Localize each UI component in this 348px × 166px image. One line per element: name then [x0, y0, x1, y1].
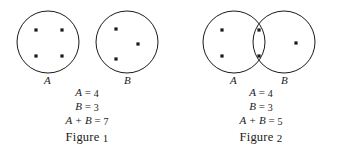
set-a-only-dot — [220, 28, 223, 31]
figure-1-equations: A = 4 B = 3 A + B = 7 — [0, 86, 174, 128]
figure-1: A B A = 4 B = 3 A + B = 7 Figure 1 — [0, 0, 174, 166]
figure-2-set-a-label: A — [230, 75, 237, 86]
eq-right: 3 — [268, 102, 273, 113]
eq-left: B — [75, 100, 82, 112]
figure-2-svg — [174, 4, 348, 80]
eq-right: 4 — [94, 88, 99, 99]
figure-1-equation-a: A = 4 — [0, 86, 174, 100]
eq-right: 7 — [103, 116, 108, 127]
eq-right: 5 — [277, 116, 282, 127]
figure-1-svg — [0, 4, 174, 80]
set-a-dot — [34, 28, 37, 31]
figure-1-equation-sum: A + B = 7 — [0, 114, 174, 128]
figure-1-set-a-label: A — [44, 75, 51, 86]
set-b-circle — [253, 11, 315, 73]
set-b-dot — [136, 42, 139, 45]
caption-number: 1 — [103, 132, 109, 144]
figure-2-equation-a: A = 4 — [174, 86, 348, 100]
caption-text: Figure — [240, 130, 274, 144]
figure-1-caption: Figure 1 — [0, 131, 174, 144]
set-b-circle — [96, 11, 158, 73]
figure-2-caption: Figure 2 — [174, 131, 348, 144]
figure-2-equations: A = 4 B = 3 A + B = 5 — [174, 86, 348, 128]
eq-left: A + B — [66, 114, 92, 126]
set-b-dot — [114, 27, 117, 30]
set-a-circle — [17, 11, 79, 73]
figure-2: A B A = 4 B = 3 A + B = 5 Figure 2 — [174, 0, 348, 166]
figure-1-diagram — [0, 4, 174, 80]
set-a-dot — [34, 54, 37, 57]
caption-text: Figure — [66, 130, 100, 144]
eq-right: 4 — [268, 88, 273, 99]
set-b-dot — [114, 57, 117, 60]
set-a-only-dot — [220, 54, 223, 57]
set-b-only-dot — [294, 41, 297, 44]
intersection-dot — [257, 54, 260, 57]
figure-1-set-b-label: B — [124, 75, 131, 86]
figure-1-equation-b: B = 3 — [0, 100, 174, 114]
figure-2-diagram — [174, 4, 348, 80]
eq-left: B — [249, 100, 256, 112]
eq-left: A + B — [240, 114, 266, 126]
eq-right: 3 — [94, 102, 99, 113]
intersection-dot — [257, 28, 260, 31]
eq-left: A — [249, 86, 256, 98]
figure-2-equation-sum: A + B = 5 — [174, 114, 348, 128]
set-a-dot — [60, 54, 63, 57]
figure-2-set-b-label: B — [281, 75, 288, 86]
figure-2-equation-b: B = 3 — [174, 100, 348, 114]
set-a-circle — [203, 11, 265, 73]
set-a-dot — [60, 28, 63, 31]
eq-left: A — [75, 86, 82, 98]
caption-number: 2 — [277, 132, 283, 144]
